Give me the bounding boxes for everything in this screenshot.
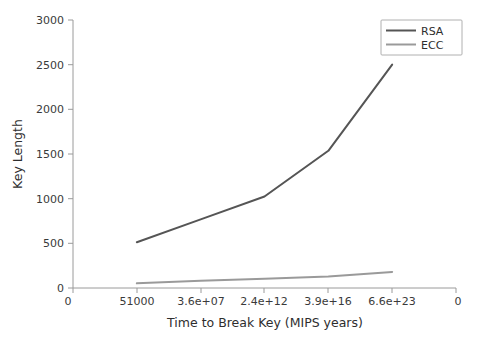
x-tick-label-66e23: 6.6e+23 xyxy=(368,295,415,308)
y-axis-title: Key Length xyxy=(10,119,25,189)
series-line-ecc xyxy=(137,272,392,283)
x-tick-label-51000: 51000 xyxy=(120,295,155,308)
x-tick-label-end: 0 xyxy=(455,295,462,308)
line-chart: 0 500 1000 1500 2000 2500 3000 0 51000 3… xyxy=(0,0,479,339)
chart-figure: 0 500 1000 1500 2000 2500 3000 0 51000 3… xyxy=(0,0,479,339)
legend-label-ecc: ECC xyxy=(421,39,444,52)
x-axis-ticks xyxy=(73,288,456,293)
y-tick-label-2500: 2500 xyxy=(36,59,64,72)
y-tick-label-3000: 3000 xyxy=(36,14,64,27)
x-tick-label-39e16: 3.9e+16 xyxy=(304,295,351,308)
x-axis-title: Time to Break Key (MIPS years) xyxy=(166,315,363,330)
y-axis-ticks xyxy=(68,20,73,288)
y-tick-label-500: 500 xyxy=(43,237,64,250)
chart-legend[interactable]: RSA ECC xyxy=(381,20,462,55)
x-tick-label-0: 0 xyxy=(65,295,72,308)
series-line-rsa xyxy=(137,65,392,243)
y-tick-label-2000: 2000 xyxy=(36,103,64,116)
x-tick-label-36e07: 3.6e+07 xyxy=(177,295,224,308)
legend-label-rsa: RSA xyxy=(421,25,444,38)
y-tick-label-0: 0 xyxy=(57,282,64,295)
y-tick-label-1000: 1000 xyxy=(36,193,64,206)
y-tick-label-1500: 1500 xyxy=(36,148,64,161)
x-tick-label-24e12: 2.4e+12 xyxy=(240,295,287,308)
